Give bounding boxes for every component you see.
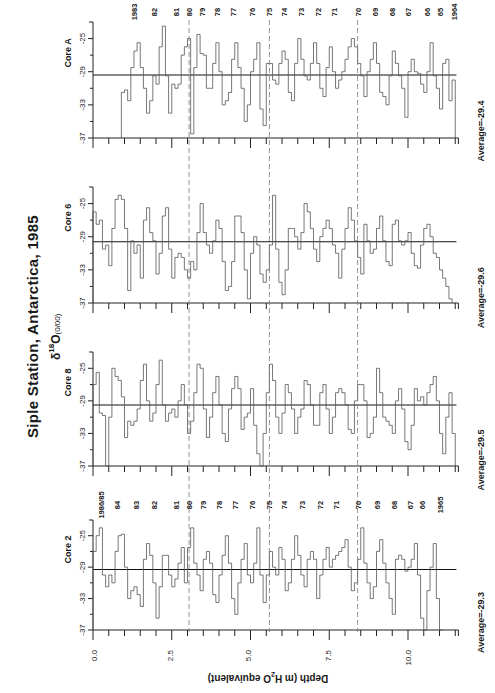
- y-axis-label: δ18O(0/00): [47, 313, 63, 360]
- year-label-core-2: 76: [248, 501, 257, 509]
- year-label-core-a: 67: [404, 8, 413, 16]
- core-label: Core 6: [63, 204, 73, 232]
- depth-axis: 0.0 2.5 5.0 7.5 10.0 Depth (m H2O equiva…: [90, 649, 413, 684]
- y-tick-label: -37: [78, 297, 87, 309]
- depth-tick-3: 7.5: [324, 649, 333, 661]
- average-label: Average=-29.5: [476, 429, 486, 490]
- year-label-core-a: 1983: [130, 4, 139, 21]
- year-label-core-a: 75: [265, 8, 274, 16]
- depth-tick-4: 10.0: [404, 649, 413, 665]
- y-tick-label: -37: [78, 132, 87, 144]
- year-label-core-2: 82: [150, 501, 159, 509]
- y-tick-label: -29: [78, 561, 87, 573]
- year-label-core-2: 78: [215, 501, 224, 509]
- oxygen-symbol: O: [49, 334, 63, 343]
- y-tick-label: -29: [78, 65, 87, 77]
- isotope-series: [93, 528, 443, 630]
- year-label-core-2: 66: [418, 501, 427, 509]
- year-label-core-2: 67: [406, 501, 415, 509]
- y-tick-label: -33: [78, 427, 87, 439]
- depth-axis-title: Depth (m H2O equivalent): [208, 671, 329, 684]
- y-tick-label: -37: [78, 460, 87, 472]
- year-label-core-2: 80: [185, 501, 194, 509]
- y-tick-label: -37: [78, 624, 87, 636]
- average-label: Average=-29.6: [476, 267, 486, 328]
- svg-text:δ18O(0/00): δ18O(0/00): [47, 313, 63, 360]
- panel-core-6: -25-29-33-37Core 6Average=-29.6: [63, 187, 486, 328]
- y-tick-label: -25: [78, 197, 87, 209]
- panel-core-a: -25-29-33-37Core AAverage=-29.4: [63, 22, 486, 162]
- y-tick-label: -25: [78, 529, 87, 541]
- year-label-core-a: 70: [354, 8, 363, 16]
- year-label-core-a: 69: [371, 8, 380, 16]
- chart-title-text: Siple Station, Antarctica, 1985: [24, 215, 41, 438]
- y-tick-label: -29: [78, 230, 87, 242]
- y-tick-label: -33: [78, 99, 87, 111]
- ice-core-chart: Siple Station, Antarctica, 1985 δ18O(0/0…: [0, 0, 495, 693]
- year-label-core-2: 83: [132, 501, 141, 509]
- year-label-core-2: 70: [354, 501, 363, 509]
- isotope-series: [93, 195, 452, 303]
- year-label-core-2: 71: [332, 501, 341, 509]
- core-panels: -25-29-33-37Core AAverage=-29.4-25-29-33…: [63, 3, 486, 653]
- year-label-core-a: 79: [198, 8, 207, 16]
- year-label-core-2: 81: [172, 501, 181, 509]
- svg-text:Depth (m H2O equivalent): Depth (m H2O equivalent): [208, 671, 329, 684]
- depth-tick-1: 2.5: [166, 649, 175, 661]
- core-label: Core 2: [63, 536, 73, 564]
- y-tick-label: -29: [78, 395, 87, 407]
- year-label-core-2: 68: [390, 501, 399, 509]
- depth-tick-2: 5.0: [244, 649, 253, 661]
- year-label-core-a: 1964: [450, 3, 459, 21]
- year-label-core-a: 81: [172, 8, 181, 16]
- year-label-core-a: 71: [330, 8, 339, 16]
- year-label-core-2: 79: [199, 501, 208, 509]
- y-tick-label: -25: [78, 362, 87, 374]
- isotope-series: [121, 26, 455, 138]
- year-label-core-a: 74: [280, 7, 289, 16]
- panel-core-2: -25-29-33-37Core 2Average=-29.3: [63, 520, 486, 653]
- isotope-series: [93, 360, 455, 466]
- year-label-core-a: 68: [388, 8, 397, 16]
- year-label-core-2: 1986/85: [97, 491, 106, 518]
- year-label-core-a: 65: [436, 8, 445, 16]
- y-tick-label: -25: [78, 32, 87, 44]
- average-label: Average=-29.3: [476, 592, 486, 653]
- year-label-core-2: 84: [113, 500, 122, 509]
- year-label-core-2: 1965: [436, 497, 445, 514]
- year-label-core-2: 74: [280, 500, 289, 509]
- chart-title: Siple Station, Antarctica, 1985: [24, 215, 41, 438]
- year-label-core-2: 77: [231, 501, 240, 509]
- core-label: Core 8: [63, 368, 73, 396]
- year-label-core-a: 66: [423, 8, 432, 16]
- depth-tick-0: 0.0: [90, 649, 99, 661]
- year-label-core-a: 73: [297, 8, 306, 16]
- year-label-core-2: 72: [316, 501, 325, 509]
- core-label: Core A: [63, 38, 73, 68]
- year-label-core-2: 73: [298, 501, 307, 509]
- delta-symbol: δ: [49, 353, 63, 360]
- year-label-core-a: 77: [229, 8, 238, 16]
- year-label-core-a: 76: [248, 8, 257, 16]
- y-tick-label: -33: [78, 264, 87, 276]
- year-label-core-a: 82: [150, 8, 159, 16]
- year-label-core-a: 78: [213, 8, 222, 16]
- permil-unit: (0/00): [53, 313, 62, 334]
- y-tick-label: -33: [78, 592, 87, 604]
- year-label-core-a: 80: [185, 8, 194, 16]
- panel-core-8: -25-29-33-37Core 8Average=-29.5: [63, 352, 486, 490]
- year-label-core-a: 72: [314, 8, 323, 16]
- year-label-core-2: 69: [373, 501, 382, 509]
- year-label-core-2: 75: [265, 501, 274, 509]
- average-label: Average=-29.4: [476, 101, 486, 162]
